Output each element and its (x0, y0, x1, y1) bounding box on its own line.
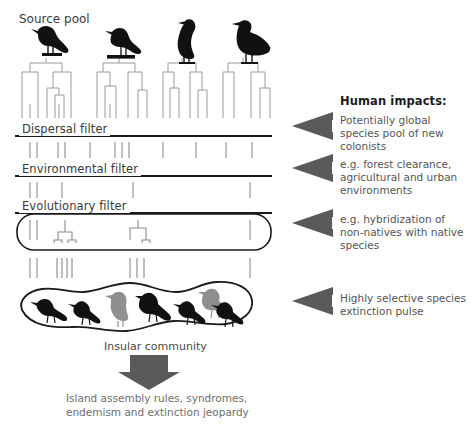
insular-community-label: Insular community (104, 340, 207, 353)
source-pool-label: Source pool (19, 12, 90, 26)
tick-row-below-box (30, 258, 250, 278)
tick-row-below-environmental (30, 182, 250, 198)
evolutionary-radiation-box (17, 214, 271, 250)
tick-row-below-source (22, 104, 270, 118)
impact-arrow-dispersal (292, 112, 333, 140)
in-box-clade-a (54, 220, 76, 243)
impact-arrow-extinction (292, 287, 333, 315)
dispersal-filter-label: Dispersal filter (19, 122, 110, 136)
environmental-filter-label: Environmental filter (19, 162, 141, 176)
bird-silhouette-clade-1 (31, 26, 68, 56)
clade-tree-1 (22, 58, 71, 104)
human-impact-text-evolutionary: e.g. hybridization of non-natives with n… (340, 213, 468, 253)
human-impact-arrows (292, 112, 333, 315)
human-impact-text-extinction: Highly selective species extinction puls… (340, 292, 468, 318)
box-contents (30, 220, 250, 243)
in-box-clade-b (130, 220, 150, 243)
clade-tree-3 (163, 58, 207, 104)
bird-silhouette-clade-4 (232, 20, 270, 64)
tick-row-below-dispersal (30, 142, 252, 158)
human-impacts-heading: Human impacts: (340, 94, 447, 108)
impact-arrow-evolutionary (292, 209, 333, 237)
outcome-caption: Island assembly rules, syndromes, endemi… (66, 392, 296, 419)
clade-tree-4 (223, 58, 270, 104)
insular-to-outcome-arrow (118, 355, 180, 390)
clade-tree-2 (97, 58, 147, 104)
evolutionary-filter-label: Evolutionary filter (19, 199, 130, 213)
bird-silhouette-clade-2 (105, 28, 141, 59)
human-impact-text-environmental: e.g. forest clearance, agricultural and … (340, 158, 468, 198)
source-pool-trees (22, 58, 270, 104)
impact-arrow-environmental (292, 154, 333, 182)
bird-silhouette-clade-3 (178, 19, 196, 64)
human-impact-text-dispersal: Potentially global species pool of new c… (340, 114, 468, 154)
figure-root: Source pool Dispersal filter Environment… (0, 0, 472, 432)
